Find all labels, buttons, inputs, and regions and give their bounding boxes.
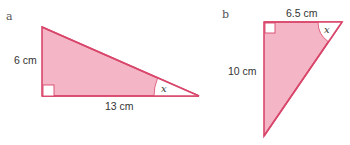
diagram-canvas: a 6 cm 13 cm x b 6.5 cm 10 cm x (0, 0, 350, 145)
right-angle-marker-a (43, 85, 54, 96)
part-a-label: a (6, 10, 13, 23)
side-b-horizontal-label: 6.5 cm (286, 7, 318, 19)
right-angle-marker-b (265, 23, 275, 33)
triangle-a: a 6 cm 13 cm x (6, 10, 199, 112)
angle-a-label: x (161, 83, 167, 94)
angle-b-label: x (324, 24, 330, 35)
part-b-label: b (222, 8, 229, 21)
side-b-vertical-label: 10 cm (228, 65, 257, 77)
side-a-vertical-label: 6 cm (14, 54, 37, 66)
triangle-b: b 6.5 cm 10 cm x (222, 7, 342, 136)
side-a-horizontal-label: 13 cm (105, 100, 134, 112)
